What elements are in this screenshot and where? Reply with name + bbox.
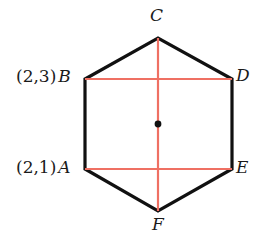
vertex-label-a: A (56, 157, 70, 177)
vertex-label-d: D (236, 67, 250, 84)
vertex-label-f: F (152, 216, 164, 233)
coordinate-text-b: (2,3) (16, 66, 56, 86)
vertex-label-e: E (236, 159, 248, 176)
figure-canvas: C D E F (2,3)B (2,1)A (0, 0, 264, 243)
center-dot (155, 121, 162, 128)
coordinate-text-a: (2,1) (16, 157, 56, 177)
vertex-label-b: B (56, 66, 71, 86)
vertex-label-b-with-coordinates: (2,3)B (16, 68, 71, 85)
vertex-label-c: C (150, 7, 163, 24)
vertex-label-a-with-coordinates: (2,1)A (16, 159, 71, 176)
hexagon-diagram (0, 0, 264, 243)
